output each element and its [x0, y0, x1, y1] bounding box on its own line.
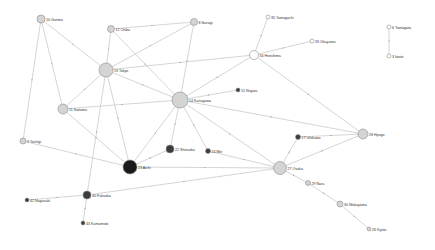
node-label: 14 Kanagawa: [189, 99, 211, 103]
node-14-kanagawa[interactable]: 14 Kanagawa: [172, 92, 211, 108]
node-circle[interactable]: [20, 138, 26, 144]
node-30-wakayama[interactable]: 30 Wakayama: [337, 201, 367, 207]
node-label: 35 Yamaguchi: [271, 16, 294, 20]
node-label: 9 Tochigi: [27, 140, 41, 144]
node-circle[interactable]: [81, 221, 85, 225]
node-circle[interactable]: [387, 54, 391, 58]
node-6-yamagata[interactable]: 6 Yamagata: [387, 25, 411, 30]
node-label: 33 Okayama: [315, 40, 335, 44]
node-label: 43 Kumamoto: [86, 222, 108, 226]
node-label: 13 Tokyo: [114, 69, 128, 73]
node-circle[interactable]: [58, 104, 68, 114]
node-circle[interactable]: [306, 181, 311, 186]
edge-arrow-icon: [121, 104, 123, 105]
node-12-chiba[interactable]: 12 Chiba: [108, 26, 130, 33]
node-circle[interactable]: [337, 201, 343, 207]
edge-layer: [23, 17, 390, 229]
node-label: 15 Niigata: [241, 89, 257, 93]
edge-arrow-icon: [388, 41, 389, 43]
node-43-kumamoto[interactable]: 43 Kumamoto: [81, 221, 108, 226]
node-24-mie[interactable]: 24 Mie: [206, 149, 223, 154]
node-23-aichi[interactable]: 23 Aichi: [123, 160, 151, 174]
node-28-hyogo[interactable]: 28 Hyogo: [358, 129, 384, 139]
node-circle[interactable]: [206, 149, 211, 154]
node-circle[interactable]: [25, 198, 29, 202]
node-circle[interactable]: [274, 162, 287, 175]
node-label: 22 Shizuoka: [175, 148, 195, 152]
node-29-nara[interactable]: 29 Nara: [306, 181, 325, 186]
node-circle[interactable]: [266, 15, 270, 19]
node-9-tochigi[interactable]: 9 Tochigi: [20, 138, 41, 144]
edge-arrow-icon: [330, 135, 332, 136]
node-label: 23 Aichi: [138, 166, 151, 170]
node-circle[interactable]: [123, 160, 137, 174]
node-10-gunma[interactable]: 10 Gunma: [37, 15, 63, 23]
node-13-tokyo[interactable]: 13 Tokyo: [99, 63, 128, 77]
node-17-ishikawa[interactable]: 17 Ishikawa: [296, 135, 321, 140]
node-11-saitama[interactable]: 11 Saitama: [58, 104, 87, 114]
node-22-shizuoka[interactable]: 22 Shizuoka: [166, 145, 195, 153]
node-42-nagasaki[interactable]: 42 Nagasaki: [25, 198, 50, 203]
node-circle[interactable]: [358, 129, 368, 139]
edge-arrow-icon: [179, 62, 181, 63]
node-label: 8 Ibaragi: [199, 21, 213, 25]
node-circle[interactable]: [387, 25, 391, 29]
node-circle[interactable]: [108, 26, 115, 33]
node-26-kyoto[interactable]: 26 Kyoto: [367, 227, 386, 232]
node-label: 11 Saitama: [69, 108, 87, 112]
node-circle[interactable]: [296, 135, 301, 140]
node-label: 27 Osaka: [288, 167, 303, 171]
edge-arrow-icon: [56, 197, 58, 198]
node-8-ibaragi[interactable]: 8 Ibaragi: [191, 19, 213, 26]
node-34-hiroshima[interactable]: 34 Hiroshima: [250, 51, 281, 60]
node-circle[interactable]: [367, 227, 371, 231]
node-label: 24 Mie: [212, 150, 223, 154]
node-label: 34 Hiroshima: [260, 54, 281, 58]
node-circle[interactable]: [191, 19, 198, 26]
node-layer: 10 Gunma12 Chiba8 Ibaragi35 Yamaguchi33 …: [20, 15, 411, 232]
node-15-niigata[interactable]: 15 Niigata: [236, 88, 257, 93]
node-label: 26 Kyoto: [372, 228, 386, 232]
edge-arrow-icon: [204, 167, 206, 168]
node-circle[interactable]: [166, 145, 174, 153]
node-33-okayama[interactable]: 33 Okayama: [310, 39, 335, 44]
node-circle[interactable]: [37, 15, 45, 23]
node-circle[interactable]: [310, 39, 314, 43]
node-label: 40 Fukuoka: [92, 194, 111, 198]
node-circle[interactable]: [250, 51, 259, 60]
node-label: 30 Wakayama: [344, 203, 367, 207]
node-label: 29 Nara: [312, 182, 325, 186]
node-label: 6 Yamagata: [392, 26, 411, 30]
node-label: 42 Nagasaki: [30, 199, 50, 203]
node-circle[interactable]: [236, 88, 240, 92]
node-circle[interactable]: [83, 191, 91, 199]
node-3-iwate[interactable]: 3 Iwate: [387, 54, 404, 59]
node-label: 28 Hyogo: [369, 133, 384, 137]
node-label: 3 Iwate: [392, 55, 404, 59]
node-label: 10 Gunma: [46, 18, 63, 22]
node-circle[interactable]: [172, 92, 188, 108]
node-label: 12 Chiba: [116, 28, 130, 32]
node-circle[interactable]: [99, 63, 113, 77]
network-graph: 10 Gunma12 Chiba8 Ibaragi35 Yamaguchi33 …: [0, 0, 435, 250]
edge-arrow-icon: [151, 25, 153, 26]
node-35-yamaguchi[interactable]: 35 Yamaguchi: [266, 15, 294, 20]
node-label: 17 Ishikawa: [302, 136, 321, 140]
